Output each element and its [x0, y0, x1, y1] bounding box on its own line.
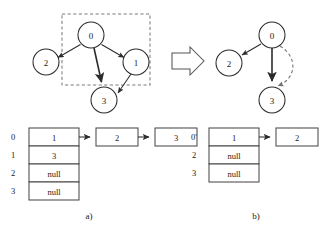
list-index-2: 2 [11, 168, 15, 178]
caption-a: a) [86, 211, 93, 221]
list-head-value-1-panel-b: null [227, 151, 241, 161]
edge-0-to-1 [102, 45, 125, 58]
list-index-0-prime: 0' [191, 132, 197, 142]
graph-node-0-panel-b: 0 [259, 22, 285, 48]
list-head-value-2-panel-b: null [227, 169, 241, 179]
list-head-value-1: 3 [52, 151, 56, 161]
list-head-value-2: null [47, 169, 61, 179]
graph-node-2-panel-a: 2 [33, 49, 59, 75]
list-head-value-0: 1 [52, 133, 56, 143]
list-index-2-panel-b: 2 [192, 150, 196, 160]
graph-node-2-panel-b: 2 [216, 50, 242, 76]
list-index-1: 1 [11, 150, 15, 160]
node-label: 0 [270, 31, 275, 41]
edge-0-to-2 [58, 45, 81, 58]
graph-node-3-panel-a: 3 [91, 87, 117, 113]
panel-b-graph: 0 2 3 [216, 22, 293, 113]
node-label: 2 [44, 58, 49, 68]
list-chain-value-b-1: 2 [295, 133, 299, 143]
transition-arrow-icon [172, 47, 204, 75]
list-head-value-3: null [47, 187, 61, 197]
list-head-value-0-panel-b: 1 [232, 133, 236, 143]
list-index-3: 3 [11, 186, 15, 196]
list-chain-value-a-2: 3 [174, 133, 178, 143]
graph-node-3-panel-b: 3 [259, 87, 285, 113]
edge-0-to-3-dashed-panel-b [278, 46, 293, 86]
list-index-0: 0 [11, 132, 15, 142]
node-label: 1 [134, 58, 139, 68]
graph-node-0-panel-a: 0 [78, 22, 104, 48]
node-label: 2 [227, 59, 232, 69]
node-label: 0 [89, 31, 94, 41]
figure-root: 0 2 1 3 0 [0, 0, 324, 235]
edge-0-to-3 [94, 48, 102, 82]
edge-1-to-3 [118, 74, 131, 93]
list-chain-value-a-1: 2 [115, 133, 119, 143]
diagram-canvas: 0 2 1 3 0 [0, 0, 324, 235]
caption-b: b) [252, 211, 260, 221]
node-label: 3 [270, 96, 275, 106]
panel-a-adjacency-list: 0 1 2 3 1 3 null null 2 3 [11, 128, 197, 200]
panel-a-graph: 0 2 1 3 [33, 14, 150, 113]
graph-node-1-panel-a: 1 [123, 49, 149, 75]
edge-0-to-2-panel-b [242, 44, 261, 55]
panel-b-adjacency-list: 0' 2 3 1 null null 2 [191, 128, 318, 182]
list-index-3-panel-b: 3 [192, 168, 196, 178]
node-label: 3 [102, 96, 107, 106]
